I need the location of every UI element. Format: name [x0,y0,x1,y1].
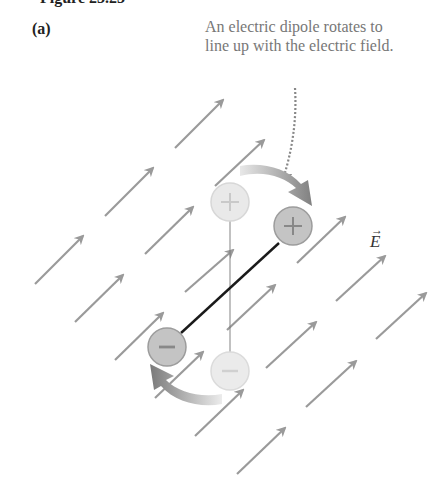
field-arrow-icon [227,285,275,330]
field-arrow-icon [376,293,426,339]
field-arrow-icon [175,100,223,148]
field-arrow-icon [215,140,264,186]
field-arrow-icon [145,207,193,254]
electric-field-label: → E [370,232,380,252]
field-arrow-icon [336,256,385,301]
field-arrow-icon [35,236,83,284]
dotted-pointer-icon [284,88,295,176]
field-arrow-icon [185,250,233,292]
field-arrow-icon [105,168,153,216]
vector-arrow-icon: → [371,223,383,238]
field-arrow-icon [266,322,316,368]
rotation-arrow-top-icon [240,165,312,206]
field-arrow-icon [75,275,123,322]
field-arrow-icon [306,361,356,407]
field-arrow-icon [237,428,285,474]
diagram-canvas: Figure 23.23 (a) An electric dipole rota… [0,0,447,490]
